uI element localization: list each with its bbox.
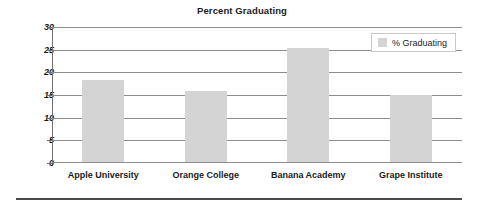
legend-swatch-graduating bbox=[378, 38, 387, 47]
chart-title: Percent Graduating bbox=[0, 5, 484, 16]
bar-slot bbox=[155, 27, 258, 163]
bar bbox=[390, 95, 432, 163]
bar bbox=[287, 48, 329, 163]
x-tick-label: Banana Academy bbox=[257, 170, 360, 180]
bar-chart-figure: Percent Graduating 051015202530 Apple Un… bbox=[0, 0, 484, 210]
bar bbox=[82, 80, 124, 163]
bar bbox=[185, 91, 227, 163]
bar-slot bbox=[52, 27, 155, 163]
x-axis-baseline bbox=[52, 162, 462, 163]
chart-legend: % Graduating bbox=[371, 33, 456, 52]
x-tick-label: Orange College bbox=[155, 170, 258, 180]
x-tick-label: Grape Institute bbox=[360, 170, 463, 180]
bar-slot bbox=[257, 27, 360, 163]
x-tick-label: Apple University bbox=[52, 170, 155, 180]
bottom-rule bbox=[16, 198, 462, 200]
legend-label-graduating: % Graduating bbox=[392, 38, 447, 48]
